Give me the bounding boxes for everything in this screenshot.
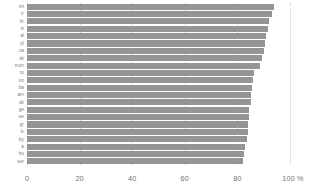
y-axis-label-mon: mon — [0, 62, 24, 69]
bar-row — [27, 128, 290, 135]
bar-row — [27, 91, 290, 98]
bar-hr — [27, 18, 269, 24]
bar-dk — [27, 99, 251, 105]
bar-ee — [27, 114, 249, 120]
x-axis-tick-80: 80 — [233, 174, 241, 183]
y-axis-label-ca: ca — [0, 47, 24, 54]
bar-row — [27, 55, 290, 62]
y-axis-label-by: by — [0, 136, 24, 143]
bar-row — [27, 40, 290, 47]
bar-hu — [27, 151, 244, 157]
bar-row — [27, 121, 290, 128]
bar-row — [27, 158, 290, 165]
x-axis: 020406080100 % — [27, 168, 290, 190]
bar-ge — [27, 107, 249, 113]
bar-by — [27, 136, 247, 142]
bar-chart: mttrhrisalplcaskmonronobaamdkgeeegrlvbya… — [0, 0, 316, 193]
y-axis-label-ge: ge — [0, 106, 24, 113]
bar-mt — [27, 4, 274, 10]
bar-row — [27, 47, 290, 54]
y-axis-label-gr: gr — [0, 121, 24, 128]
bar-row — [27, 77, 290, 84]
bar-ca — [27, 48, 264, 54]
bar-row — [27, 150, 290, 157]
bar-gr — [27, 121, 248, 127]
x-axis-tick-60: 60 — [181, 174, 189, 183]
bar-ser — [27, 158, 243, 164]
bar-row — [27, 84, 290, 91]
bar-tr — [27, 11, 272, 17]
bar-pl — [27, 40, 265, 46]
y-axis-label-ba: ba — [0, 84, 24, 91]
y-axis-label-tr: tr — [0, 10, 24, 17]
x-axis-tick-20: 20 — [75, 174, 83, 183]
bar-series — [27, 3, 290, 165]
bar-ba — [27, 85, 252, 91]
bar-row — [27, 143, 290, 150]
y-axis-label-lv: lv — [0, 128, 24, 135]
plot-area — [27, 3, 290, 165]
x-axis-tick-100: 100 % — [282, 174, 303, 183]
bar-row — [27, 10, 290, 17]
bar-sk — [27, 55, 262, 61]
bar-no — [27, 77, 253, 83]
y-axis-labels: mttrhrisalplcaskmonronobaamdkgeeegrlvbya… — [0, 3, 24, 165]
y-axis-label-pl: pl — [0, 40, 24, 47]
y-axis-label-hu: hu — [0, 150, 24, 157]
bar-row — [27, 106, 290, 113]
bar-am — [27, 92, 251, 98]
bar-row — [27, 99, 290, 106]
y-axis-label-dk: dk — [0, 99, 24, 106]
y-axis-label-is: is — [0, 25, 24, 32]
x-axis-tick-0: 0 — [25, 174, 29, 183]
y-axis-label-no: no — [0, 77, 24, 84]
bar-lv — [27, 129, 248, 135]
y-axis-label-ee: ee — [0, 113, 24, 120]
bar-row — [27, 32, 290, 39]
y-axis-label-ser: ser — [0, 158, 24, 165]
bar-row — [27, 62, 290, 69]
bar-row — [27, 25, 290, 32]
y-axis-label-ro: ro — [0, 69, 24, 76]
y-axis-label-mt: mt — [0, 3, 24, 10]
bar-row — [27, 18, 290, 25]
bar-row — [27, 3, 290, 10]
y-axis-label-al: al — [0, 32, 24, 39]
bar-is — [27, 26, 268, 32]
y-axis-label-a: a — [0, 143, 24, 150]
y-axis-label-hr: hr — [0, 18, 24, 25]
y-axis-label-am: am — [0, 91, 24, 98]
bar-a — [27, 144, 245, 150]
gridline-100 — [290, 3, 292, 165]
bar-row — [27, 113, 290, 120]
bar-row — [27, 136, 290, 143]
bar-row — [27, 69, 290, 76]
bar-al — [27, 33, 266, 39]
y-axis-label-sk: sk — [0, 55, 24, 62]
bar-ro — [27, 70, 254, 76]
x-axis-tick-40: 40 — [128, 174, 136, 183]
bar-mon — [27, 63, 260, 69]
